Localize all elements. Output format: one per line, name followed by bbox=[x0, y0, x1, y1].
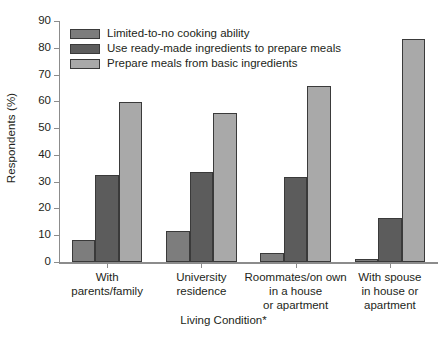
x-axis-category-line: parents/family bbox=[54, 284, 160, 298]
legend-label: Use ready-made ingredients to prepare me… bbox=[107, 43, 341, 55]
y-axis-tick-label: 70 bbox=[1, 69, 51, 81]
legend-label: Limited-to-no cooking ability bbox=[107, 28, 250, 40]
x-axis-category-label: Roommates/on ownin a houseor apartment bbox=[243, 270, 349, 312]
bar[interactable] bbox=[72, 240, 96, 262]
y-axis-tick-labels: 0102030405060708090 bbox=[0, 0, 51, 339]
y-axis-tick-mark bbox=[54, 155, 59, 156]
bar[interactable] bbox=[284, 177, 308, 262]
x-axis-tick-mark bbox=[296, 263, 297, 268]
legend-swatch bbox=[70, 29, 100, 39]
y-axis-tick-mark bbox=[54, 208, 59, 209]
chart-legend: Limited-to-no cooking abilityUse ready-m… bbox=[70, 27, 341, 72]
x-axis-category-line: With spouse bbox=[337, 270, 443, 284]
y-axis-tick-mark bbox=[54, 235, 59, 236]
x-axis-category-line: With bbox=[54, 270, 160, 284]
bar-group bbox=[355, 21, 426, 262]
x-axis-category-line: in house or bbox=[337, 284, 443, 298]
y-axis-tick-mark bbox=[54, 101, 59, 102]
x-axis-category-label: Universityresidence bbox=[148, 270, 254, 298]
y-axis-tick-label: 0 bbox=[1, 256, 51, 268]
x-axis-category-label: With spousein house orapartment bbox=[337, 270, 443, 312]
x-axis-category-line: Roommates/on own bbox=[243, 270, 349, 284]
y-axis-tick-mark bbox=[54, 48, 59, 49]
bar[interactable] bbox=[95, 175, 119, 262]
x-axis-category-line: residence bbox=[148, 284, 254, 298]
y-axis-tick-mark bbox=[54, 75, 59, 76]
y-axis-tick-label: 90 bbox=[1, 15, 51, 27]
x-axis-title: Living Condition* bbox=[0, 314, 447, 326]
x-axis-line bbox=[59, 262, 438, 264]
y-axis-tick-mark bbox=[54, 262, 59, 263]
x-axis-tick-mark bbox=[201, 263, 202, 268]
x-axis-category-label: Withparents/family bbox=[54, 270, 160, 298]
bar-chart-figure: Respondents (%) 0102030405060708090 Livi… bbox=[0, 0, 447, 339]
y-axis-tick-label: 30 bbox=[1, 176, 51, 188]
x-axis-category-line: apartment bbox=[337, 298, 443, 312]
bar[interactable] bbox=[307, 86, 331, 262]
legend-swatch bbox=[70, 59, 100, 69]
legend-item[interactable]: Limited-to-no cooking ability bbox=[70, 27, 341, 41]
x-axis-category-line: or apartment bbox=[243, 298, 349, 312]
y-axis-tick-mark bbox=[54, 21, 59, 22]
x-axis-category-line: University bbox=[148, 270, 254, 284]
x-axis-tick-mark bbox=[107, 263, 108, 268]
y-axis-tick-label: 50 bbox=[1, 122, 51, 134]
bar[interactable] bbox=[166, 231, 190, 262]
y-axis-tick-label: 40 bbox=[1, 149, 51, 161]
legend-label: Prepare meals from basic ingredients bbox=[107, 58, 297, 70]
bar[interactable] bbox=[260, 253, 284, 262]
y-axis-tick-label: 60 bbox=[1, 96, 51, 108]
bar[interactable] bbox=[190, 172, 214, 262]
bar[interactable] bbox=[119, 102, 143, 262]
y-axis-tick-mark bbox=[54, 182, 59, 183]
y-axis-tick-label: 80 bbox=[1, 42, 51, 54]
legend-item[interactable]: Use ready-made ingredients to prepare me… bbox=[70, 42, 341, 56]
y-axis-tick-label: 10 bbox=[1, 229, 51, 241]
x-axis-category-line: in a house bbox=[243, 284, 349, 298]
bar[interactable] bbox=[402, 39, 426, 262]
legend-item[interactable]: Prepare meals from basic ingredients bbox=[70, 57, 341, 71]
bar[interactable] bbox=[378, 218, 402, 262]
y-axis-tick-label: 20 bbox=[1, 203, 51, 215]
bar[interactable] bbox=[213, 113, 237, 262]
legend-swatch bbox=[70, 44, 100, 54]
y-axis-tick-mark bbox=[54, 128, 59, 129]
bar[interactable] bbox=[355, 259, 379, 262]
x-axis-tick-mark bbox=[390, 263, 391, 268]
